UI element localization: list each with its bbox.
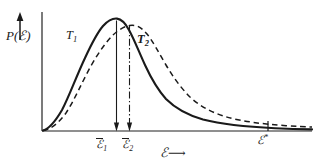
dropline-e1 xyxy=(114,21,119,132)
y-axis-label-text: P(ℰ) xyxy=(6,28,31,43)
x-tick-label-estar: ℰ* xyxy=(257,134,268,146)
x-tick-label-e1: ℰ1 xyxy=(96,139,107,152)
energy-distribution-figure: P(ℰ) T1 T2 ℰ1 ℰ2 ℰ* ℰ⟶ xyxy=(0,0,319,168)
x-axis-arrow-icon: ⟶ xyxy=(168,146,185,160)
curve-label-t1-subscript: 1 xyxy=(73,34,77,44)
curve-t1 xyxy=(43,19,312,131)
x-tick-label-estar-superscript: * xyxy=(264,133,268,142)
x-tick-label-estar-symbol: ℰ xyxy=(257,134,264,146)
curve-label-t2-letter: T xyxy=(137,32,145,46)
x-tick-label-e2-symbol: ℰ xyxy=(122,139,129,151)
curve-label-t2-subscript: 2 xyxy=(145,38,149,48)
x-tick-label-e2: ℰ2 xyxy=(122,139,133,152)
curve-t2 xyxy=(43,25,312,130)
plot-area xyxy=(0,0,319,168)
x-tick-label-e1-subscript: 1 xyxy=(103,144,107,153)
x-tick-label-e2-subscript: 2 xyxy=(129,144,133,153)
x-axis-label: ℰ⟶ xyxy=(160,146,185,159)
curve-label-t1-letter: T xyxy=(66,28,73,42)
dropline-e2 xyxy=(127,26,132,132)
x-axis-label-text: ℰ xyxy=(160,145,168,160)
x-tick-label-e1-symbol: ℰ xyxy=(96,139,103,151)
curve-label-t2: T2 xyxy=(137,33,149,47)
y-axis-label: P(ℰ) xyxy=(6,29,31,42)
curve-label-t1: T1 xyxy=(66,29,77,43)
